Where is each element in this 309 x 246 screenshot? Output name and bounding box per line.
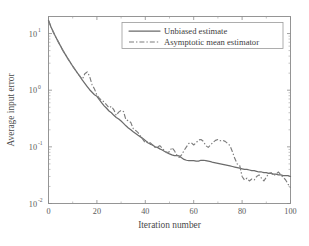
x-tick-label: 60 xyxy=(190,207,198,216)
y-tick-label: 10 xyxy=(29,143,37,152)
legend-label-1: Asymptotic mean estimator xyxy=(164,37,259,47)
y-tick-exponent: -1 xyxy=(38,140,43,146)
y-tick-exponent: 1 xyxy=(38,27,41,33)
y-tick-exponent: 0 xyxy=(38,84,41,90)
x-tick-label: 0 xyxy=(46,207,50,216)
x-tick-label: 100 xyxy=(284,207,296,216)
y-tick-label: 10 xyxy=(29,30,37,39)
line-chart: 02040608010010110010-110-2 Unbiased esti… xyxy=(0,0,309,246)
x-tick-label: 20 xyxy=(93,207,101,216)
x-tick-label: 40 xyxy=(141,207,149,216)
y-tick-label: 10 xyxy=(29,200,37,209)
x-axis-title: Iteration number xyxy=(138,220,202,230)
chart-figure: 02040608010010110010-110-2 Unbiased esti… xyxy=(0,0,309,246)
y-axis-title: Average input error xyxy=(6,73,16,147)
chart-legend: Unbiased estimateAsymptotic mean estimat… xyxy=(122,23,283,49)
legend-label-0: Unbiased estimate xyxy=(164,26,227,36)
y-tick-exponent: -2 xyxy=(38,197,43,203)
y-tick-label: 10 xyxy=(29,86,37,95)
x-tick-label: 80 xyxy=(238,207,246,216)
